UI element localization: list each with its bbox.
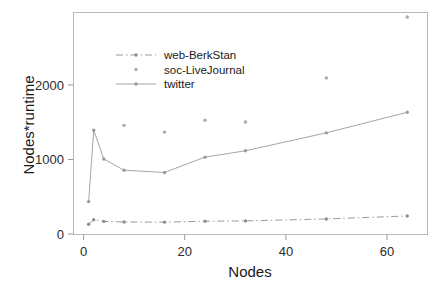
legend-label: soc-LiveJournal: [164, 64, 245, 76]
series-web-berkstan: [87, 214, 409, 226]
data-point: [92, 218, 95, 221]
chart-legend: web-BerkStansoc-LiveJournaltwitter: [116, 49, 245, 90]
x-axis-ticks: [84, 235, 387, 241]
x-axis-title: Nodes: [228, 263, 271, 280]
data-point: [203, 118, 206, 121]
plot-frame: [74, 13, 428, 235]
data-point: [406, 111, 409, 114]
data-point: [87, 222, 90, 225]
chart-figure: 0 1000 2000 0 20 40 60 Nodes Nodes*runti…: [0, 0, 448, 287]
data-point: [102, 220, 105, 223]
x-tick-label-60: 60: [380, 244, 394, 259]
y-tick-label-0: 0: [57, 227, 64, 242]
x-tick-label-0: 0: [80, 244, 87, 259]
legend-item[interactable]: soc-LiveJournal: [134, 64, 244, 76]
x-tick-label-20: 20: [177, 244, 191, 259]
data-point: [122, 169, 125, 172]
data-point: [203, 155, 206, 158]
legend-marker-sample: [134, 82, 137, 85]
data-point: [406, 15, 409, 18]
data-point: [122, 220, 125, 223]
data-point: [102, 157, 105, 160]
data-point: [406, 214, 409, 217]
data-point: [163, 130, 166, 133]
data-point: [163, 220, 166, 223]
data-point: [244, 120, 247, 123]
data-point: [122, 124, 125, 127]
legend-item[interactable]: web-BerkStan: [116, 49, 236, 61]
y-axis-title: Nodes*runtime: [20, 75, 37, 174]
y-tick-label-2000: 2000: [35, 78, 64, 93]
data-point: [92, 129, 95, 132]
data-point: [244, 149, 247, 152]
chart-canvas: 0 1000 2000 0 20 40 60 Nodes Nodes*runti…: [0, 0, 448, 287]
data-point: [163, 171, 166, 174]
data-point: [325, 217, 328, 220]
series-twitter: [87, 111, 409, 204]
data-point: [325, 131, 328, 134]
data-point: [244, 219, 247, 222]
legend-marker-sample: [134, 53, 137, 56]
legend-marker-sample: [134, 68, 137, 71]
series-line: [89, 216, 408, 224]
legend-label: twitter: [164, 78, 195, 90]
y-axis-ticks: [68, 85, 74, 234]
data-point: [325, 76, 328, 79]
x-tick-label-40: 40: [279, 244, 293, 259]
legend-item[interactable]: twitter: [116, 78, 195, 90]
legend-label: web-BerkStan: [163, 49, 236, 61]
series-line: [89, 112, 408, 201]
data-point: [87, 200, 90, 203]
data-point: [203, 219, 206, 222]
y-tick-label-1000: 1000: [35, 152, 64, 167]
series-layer: [87, 15, 409, 226]
